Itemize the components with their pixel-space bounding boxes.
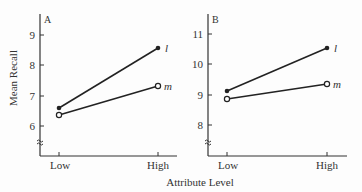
panel-a-label: A <box>44 14 52 25</box>
tick-8: 8 <box>198 119 204 131</box>
chart-figure: Mean Recall A 9 8 7 6 Low High l <box>0 0 362 192</box>
panel-b-point-m-low <box>224 96 229 101</box>
tick-7: 7 <box>30 90 36 102</box>
tick-10: 10 <box>192 58 204 70</box>
y-axis-title: Mean Recall <box>7 50 19 106</box>
panel-b: B 11 10 9 8 Low High l m <box>192 14 347 171</box>
panel-b-series-m-label: m <box>333 78 341 90</box>
panel-a-y-ticks: 9 8 7 6 <box>30 29 45 132</box>
panel-a-point-m-low <box>56 112 61 117</box>
panel-a-series-l-label: l <box>165 42 168 54</box>
tick-11: 11 <box>192 28 203 40</box>
panel-b-line-m <box>227 84 327 99</box>
panel-b-y-ticks: 11 10 9 8 <box>192 28 212 131</box>
x-axis-title: Attribute Level <box>166 176 234 188</box>
panel-a-x-high: High <box>147 159 170 171</box>
panel-a-point-l-low <box>57 106 62 111</box>
panel-b-point-m-high <box>324 81 329 86</box>
panel-a: A 9 8 7 6 Low High l m <box>30 14 178 171</box>
panel-b-line-l <box>227 48 327 91</box>
panel-a-line-m <box>59 86 158 115</box>
panel-b-label: B <box>212 14 219 25</box>
panel-a-line-l <box>59 48 158 108</box>
tick-9: 9 <box>198 89 204 101</box>
panel-b-series-l-label: l <box>334 42 337 54</box>
panel-b-x-low: Low <box>218 159 238 171</box>
panel-a-point-m-high <box>155 83 160 88</box>
panel-a-point-l-high <box>156 46 161 51</box>
panel-a-x-low: Low <box>50 159 70 171</box>
panel-a-series-m-label: m <box>164 80 172 92</box>
tick-8: 8 <box>30 59 36 71</box>
tick-9: 9 <box>30 29 36 41</box>
panel-b-point-l-high <box>325 46 330 51</box>
panel-b-x-high: High <box>316 159 339 171</box>
tick-6: 6 <box>30 120 36 132</box>
panel-b-point-l-low <box>225 89 230 94</box>
